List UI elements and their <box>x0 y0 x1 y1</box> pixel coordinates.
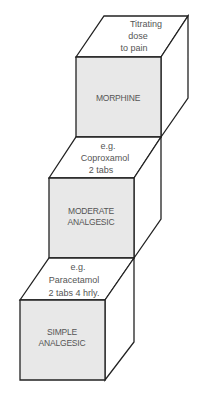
step-1-front-line-1: SIMPLE <box>47 327 78 337</box>
step-1-top-line-1: e.g. <box>70 262 85 272</box>
step-2-top-line-2: Coproxamol <box>81 153 130 163</box>
step-3-top-line-3: to pain <box>120 43 147 53</box>
step-3-top-line-1: Titrating <box>130 19 162 29</box>
step-3-top-line-2: dose <box>128 31 148 41</box>
step-2-front-line-1: MODERATE <box>68 206 114 216</box>
step-2-top-line-1: e.g. <box>100 141 115 151</box>
step-3-front-line-1: MORPHINE <box>96 93 141 103</box>
step-2-front-line-2: ANALGESIC <box>68 217 115 227</box>
step-1-front-line-2: ANALGESIC <box>39 338 86 348</box>
step-1-top-line-3: 2 tabs 4 hrly. <box>49 288 100 298</box>
step-1-top-line-2: Paracetamol <box>49 275 100 285</box>
analgesic-ladder-diagram: Titrating dose to pain MORPHINE e.g. Cop… <box>0 0 201 401</box>
step-2-top-line-3: 2 tabs <box>89 165 114 175</box>
